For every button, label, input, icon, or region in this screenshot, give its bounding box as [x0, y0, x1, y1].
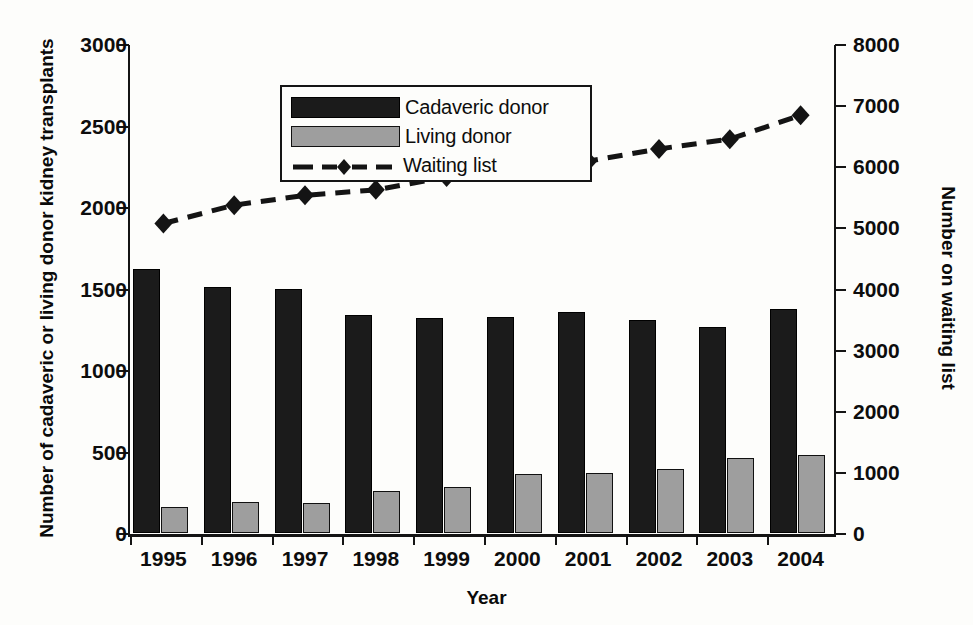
x-axis-tick	[272, 534, 274, 545]
legend-swatch-waiting-icon	[291, 157, 398, 174]
legend-label-waiting: Waiting list	[403, 154, 497, 177]
bar-cadaveric-donor	[699, 327, 726, 533]
y-axis-left-tick-label: 500	[7, 442, 127, 463]
y-axis-right-tick-label: 1000	[853, 462, 973, 483]
bar-living-donor	[727, 458, 754, 533]
y-axis-left-tick-label: 0	[7, 523, 127, 544]
y-axis-right-tick	[835, 411, 846, 413]
bar-cadaveric-donor	[133, 269, 160, 533]
x-axis-tick-label: 1998	[336, 548, 416, 569]
bar-cadaveric-donor	[487, 317, 514, 533]
legend-item-waiting-list: Waiting list	[291, 151, 581, 180]
bar-cadaveric-donor	[275, 289, 302, 533]
x-axis-tick-label: 1995	[123, 548, 203, 569]
y-axis-right-tick	[835, 227, 846, 229]
x-axis-tick	[130, 534, 132, 545]
legend-swatch-cadaveric-icon	[291, 97, 400, 118]
x-axis-tick	[413, 534, 415, 545]
bar-cadaveric-donor	[416, 318, 443, 533]
y-axis-right-tick-label: 7000	[853, 95, 973, 116]
y-axis-right-tick-label: 8000	[853, 34, 973, 55]
x-axis-tick-label: 2003	[690, 548, 770, 569]
chart-figure: Number of cadaveric or living donor kidn…	[0, 0, 973, 625]
x-axis-tick	[696, 534, 698, 545]
bar-living-donor	[303, 503, 330, 533]
y-axis-right-tick-label: 6000	[853, 156, 973, 177]
y-axis-left-tick-label: 1500	[7, 279, 127, 300]
bar-living-donor	[515, 474, 542, 533]
bar-living-donor	[798, 455, 825, 533]
y-axis-right-tick-label: 0	[853, 523, 973, 544]
y-axis-right-tick	[835, 105, 846, 107]
y-axis-right-tick	[835, 166, 846, 168]
waiting-list-diamond-marker	[367, 180, 385, 200]
bar-cadaveric-donor	[629, 320, 656, 533]
bar-living-donor	[373, 491, 400, 533]
x-axis-tick-label: 2000	[477, 548, 557, 569]
x-axis-tick-label: 1997	[265, 548, 345, 569]
y-axis-right-tick-label: 3000	[853, 340, 973, 361]
bar-living-donor	[161, 507, 188, 533]
legend-item-living-donor: Living donor	[291, 122, 581, 151]
waiting-list-diamond-marker	[792, 105, 810, 125]
y-axis-right-tick-label: 2000	[853, 401, 973, 422]
legend-label-living: Living donor	[405, 125, 512, 148]
x-axis-title: Year	[0, 587, 973, 609]
waiting-list-diamond-marker	[225, 195, 243, 215]
x-axis-line	[128, 534, 836, 537]
x-axis-tick	[555, 534, 557, 545]
y-axis-left-tick-label: 1000	[7, 360, 127, 381]
y-axis-right-tick-label: 4000	[853, 279, 973, 300]
x-axis-tick-label: 2002	[619, 548, 699, 569]
waiting-list-diamond-marker	[721, 129, 739, 149]
x-axis-tick	[342, 534, 344, 545]
bar-cadaveric-donor	[558, 312, 585, 533]
y-axis-left-tick-label: 2000	[7, 197, 127, 218]
y-axis-right-tick-label: 5000	[853, 217, 973, 238]
bar-living-donor	[657, 469, 684, 533]
bar-cadaveric-donor	[345, 315, 372, 533]
x-axis-tick	[626, 534, 628, 545]
y-axis-right-tick	[835, 289, 846, 291]
y-axis-right-tick	[835, 472, 846, 474]
y-axis-right-tick	[835, 44, 846, 46]
bar-living-donor	[232, 502, 259, 533]
x-axis-tick	[484, 534, 486, 545]
bar-cadaveric-donor	[204, 287, 231, 533]
y-axis-right-line	[834, 45, 836, 536]
waiting-list-diamond-marker	[154, 213, 172, 233]
y-axis-right-tick	[835, 350, 846, 352]
x-axis-tick-label: 1996	[194, 548, 274, 569]
bar-living-donor	[444, 487, 471, 533]
x-axis-tick	[767, 534, 769, 545]
chart-legend: Cadaveric donor Living donor Waiting lis…	[280, 85, 592, 182]
legend-label-cadaveric: Cadaveric donor	[405, 96, 549, 119]
y-axis-left-line	[128, 45, 130, 536]
plot-area: 050010001500200025003000 010002000300040…	[128, 45, 836, 535]
y-axis-left-tick-label: 3000	[7, 34, 127, 55]
x-axis-tick	[201, 534, 203, 545]
waiting-list-diamond-marker	[296, 185, 314, 205]
x-axis-tick-label: 2004	[761, 548, 841, 569]
y-axis-right-tick	[835, 533, 846, 535]
waiting-list-diamond-marker	[650, 139, 668, 159]
bar-living-donor	[586, 473, 613, 533]
legend-swatch-living-icon	[291, 126, 400, 147]
bar-cadaveric-donor	[770, 309, 797, 533]
x-axis-tick-label: 2001	[548, 548, 628, 569]
legend-item-cadaveric-donor: Cadaveric donor	[291, 93, 581, 122]
y-axis-left-tick-label: 2500	[7, 116, 127, 137]
x-axis-tick-label: 1999	[407, 548, 487, 569]
